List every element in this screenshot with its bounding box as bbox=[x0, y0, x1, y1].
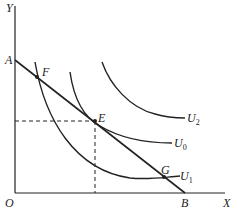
point-a-label: A bbox=[5, 54, 12, 66]
curve-u1-label: U1 bbox=[180, 170, 193, 185]
curve-u0-label: U0 bbox=[174, 137, 187, 152]
point-g-label: G bbox=[161, 164, 170, 176]
point-b-label: B bbox=[181, 197, 188, 209]
point-f bbox=[35, 75, 39, 79]
y-axis-label: Y bbox=[6, 2, 13, 14]
point-f-label: F bbox=[42, 66, 49, 78]
point-e bbox=[93, 119, 97, 123]
x-axis-label: X bbox=[223, 197, 230, 209]
curve-u2-label: U2 bbox=[187, 112, 200, 127]
diagram-canvas bbox=[0, 0, 237, 219]
curve-u2 bbox=[102, 62, 185, 118]
indifference-curve-diagram: Y X O A B F E G U2 U0 U1 bbox=[0, 0, 237, 219]
curve-u0 bbox=[70, 72, 172, 143]
point-e-label: E bbox=[98, 112, 105, 124]
curve-u1 bbox=[35, 62, 180, 179]
origin-label: O bbox=[5, 197, 14, 209]
